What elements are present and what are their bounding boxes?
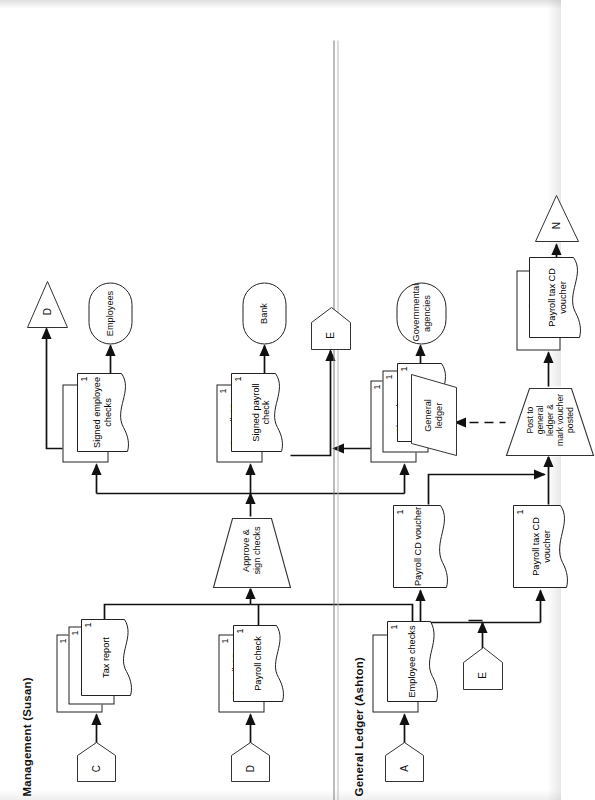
connector-in-c[interactable]: C	[76, 742, 116, 782]
doc-copy-number: 1	[394, 509, 404, 514]
connector-in-a-label: A	[399, 754, 410, 782]
doc-copy-number: 1	[388, 624, 398, 629]
lane-title-general-ledger: General Ledger (Ashton)	[352, 657, 364, 796]
doc-label: Payroll tax CD voucher	[546, 256, 567, 338]
process-post-to-general-ledger: Post to general ledger & mark voucher po…	[505, 386, 593, 456]
process-post-to-general-ledger-label: Post to general ledger & mark voucher po…	[524, 386, 574, 456]
doc-copy-number: 1	[218, 388, 227, 393]
store-general-ledger: General ledger	[410, 374, 456, 456]
document-signed-payroll-check: 1 Signed payroll check	[230, 372, 284, 452]
connector-out-d[interactable]: D	[26, 280, 68, 328]
doc-copy-number: 1	[82, 622, 92, 627]
connector-gl-out-n-label: N	[551, 208, 562, 242]
connector-gl-out-n[interactable]: N	[534, 194, 578, 242]
document-gl-payroll-cd-voucher: 1 Payroll CD voucher	[392, 504, 450, 588]
connector-in-d-label: D	[245, 754, 256, 782]
lane-title-management: Management (Susan)	[20, 677, 32, 796]
doc-label: Signed employee checks	[91, 372, 112, 452]
terminator-governmental-agencies: Governmental agencies	[396, 282, 446, 344]
connector-in-a[interactable]: A	[384, 742, 424, 782]
document-tax-report-in: 1 Tax report	[80, 618, 132, 696]
doc-label: Payroll CD voucher	[412, 504, 422, 588]
doc-copy-number: 1	[220, 638, 229, 643]
terminator-employees: Employees	[88, 282, 132, 344]
terminator-bank-label: Bank	[259, 283, 270, 343]
connector-in-c-label: C	[91, 754, 102, 782]
connector-out-e-label: E	[325, 320, 336, 350]
doc-label: Signed payroll check	[250, 372, 270, 452]
lane-separator-line-2	[337, 40, 338, 800]
document-employee-checks-in: 1 Employee checks	[386, 620, 438, 702]
document-signed-employee-checks: 1 Signed employee checks	[76, 372, 130, 452]
terminator-bank: Bank	[242, 282, 286, 344]
doc-copy-number: 1	[514, 509, 524, 514]
doc-label: Tax report	[100, 618, 110, 696]
process-approve-sign-checks: Approve & sign checks	[212, 516, 290, 588]
doc-copy-number: 1	[58, 638, 67, 643]
connector-gl-in-e[interactable]: E	[462, 646, 502, 690]
document-gl-payroll-tax-cd-voucher: 1 Payroll tax CD voucher	[512, 504, 570, 588]
store-general-ledger-label: General ledger	[423, 374, 444, 456]
connector-out-d-label: D	[42, 294, 53, 328]
document-gl-out-payroll-tax-cd-voucher: Payroll tax CD voucher	[528, 256, 582, 338]
doc-copy-number: 1	[372, 384, 381, 389]
connector-gl-in-e-label: E	[477, 660, 488, 690]
document-payroll-check-in: 1 Payroll check	[232, 624, 284, 702]
doc-copy-number: 1	[398, 366, 408, 371]
doc-label: Employee checks	[406, 620, 416, 702]
doc-label: Payroll tax CD voucher	[530, 504, 551, 588]
doc-copy-number: 1	[234, 628, 244, 633]
doc-copy-number: 1	[232, 376, 242, 381]
lane-separator-line-1	[333, 40, 334, 800]
connector-in-d[interactable]: D	[230, 742, 270, 782]
process-approve-sign-checks-label: Approve & sign checks	[241, 516, 262, 588]
connector-out-e[interactable]: E	[310, 306, 350, 350]
doc-label: Payroll check	[252, 624, 262, 702]
doc-copy-number: 1	[78, 376, 88, 381]
terminator-governmental-agencies-label: Governmental agencies	[411, 283, 432, 343]
doc-copy-number: 1	[384, 374, 393, 379]
terminator-employees-label: Employees	[105, 283, 116, 343]
doc-copy-number: 1	[70, 630, 79, 635]
